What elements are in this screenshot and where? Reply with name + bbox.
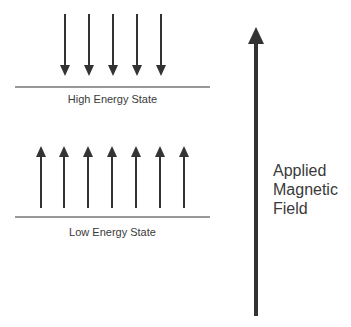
spin-down-arrow-icon xyxy=(84,14,94,76)
spin-up-arrow-icon xyxy=(131,146,141,208)
spin-up-arrow-icon xyxy=(59,146,69,208)
spin-down-arrow-icon xyxy=(132,14,142,76)
magnetic-field-arrow-icon xyxy=(248,27,264,316)
field-label-line-3: Field xyxy=(273,199,338,218)
high-energy-spin-arrows xyxy=(60,14,166,76)
spin-up-arrow-icon xyxy=(36,146,46,208)
spin-down-arrow-icon xyxy=(156,14,166,76)
low-energy-spin-arrows xyxy=(36,146,189,208)
spin-down-arrow-icon xyxy=(60,14,70,76)
spin-up-arrow-icon xyxy=(179,146,189,208)
spin-up-arrow-icon xyxy=(83,146,93,208)
field-label-line-1: Applied xyxy=(273,161,338,180)
high-energy-state-label: High Energy State xyxy=(15,93,210,105)
applied-magnetic-field-label: Applied Magnetic Field xyxy=(273,161,338,218)
low-energy-state-label: Low Energy State xyxy=(15,226,210,238)
spin-up-arrow-icon xyxy=(155,146,165,208)
spin-up-arrow-icon xyxy=(107,146,117,208)
field-label-line-2: Magnetic xyxy=(273,180,338,199)
spin-down-arrow-icon xyxy=(108,14,118,76)
